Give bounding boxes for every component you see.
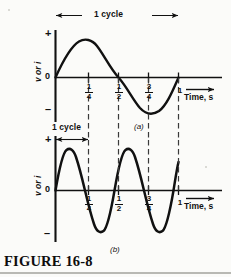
panel-b-zero-label: 0 xyxy=(45,185,50,194)
tick-numerator: 3 xyxy=(142,83,156,91)
tick-value: 1 xyxy=(173,87,187,95)
panel-a-cycle-label: 1 cycle xyxy=(94,10,123,19)
panel-b-tick-label-1-4: 1 4 xyxy=(82,195,96,213)
panel-a-group xyxy=(56,9,223,140)
tick-denominator: 4 xyxy=(142,93,156,101)
figure-caption: FIGURE 16-8 xyxy=(4,253,93,270)
panel-a-tick-label-1: 1 xyxy=(173,83,187,95)
tick-numerator: 3 xyxy=(142,195,156,203)
panel-b-minus-label: – xyxy=(44,228,50,239)
panel-a-tick-label-3-4: 3 4 xyxy=(142,83,156,101)
panel-b-label: (b) xyxy=(110,246,120,254)
tick-denominator: 2 xyxy=(112,205,126,213)
panel-b-group xyxy=(56,136,223,242)
panel-b-tick-label-1-2: 1 2 xyxy=(112,195,126,213)
panel-b-x-axis-label: Time, s xyxy=(184,202,213,211)
panel-b-plus-label: + xyxy=(45,134,51,145)
tick-denominator: 4 xyxy=(82,93,96,101)
tick-denominator: 4 xyxy=(142,205,156,213)
tick-value: 1 xyxy=(173,199,187,207)
tick-numerator: 1 xyxy=(112,195,126,203)
panel-b-dashed-guides xyxy=(89,140,179,191)
panel-a-minus-label: – xyxy=(45,104,51,115)
panel-b-y-axis-label: v or i xyxy=(34,176,43,196)
scan-speck xyxy=(8,9,10,11)
panel-a-zero-label: 0 xyxy=(45,72,50,81)
panel-a-plus-label: + xyxy=(45,28,51,39)
tick-numerator: 1 xyxy=(82,195,96,203)
panel-a-x-axis-label: Time, s xyxy=(184,93,213,102)
panel-a-label: (a) xyxy=(134,123,144,131)
panel-b-tick-label-1: 1 xyxy=(173,195,187,207)
tick-denominator: 2 xyxy=(112,93,126,101)
scan-speck xyxy=(205,166,207,168)
panel-a-tick-label-1-4: 1 4 xyxy=(82,83,96,101)
tick-numerator: 1 xyxy=(82,83,96,91)
waveform-diagram xyxy=(0,0,231,277)
caption-rule xyxy=(0,272,231,274)
panel-a-sine-curve xyxy=(56,40,179,114)
panel-b-tick-label-3-4: 3 4 xyxy=(142,195,156,213)
panel-a-y-axis-label: v or i xyxy=(34,62,43,82)
figure-16-8: 1 cycle + 0 – v or i Time, s 1 4 1 2 3 4… xyxy=(0,0,231,277)
panel-b-cycle-label: 1 cycle xyxy=(52,123,81,132)
panel-a-tick-label-1-2: 1 2 xyxy=(112,83,126,101)
tick-denominator: 4 xyxy=(82,205,96,213)
tick-numerator: 1 xyxy=(112,83,126,91)
